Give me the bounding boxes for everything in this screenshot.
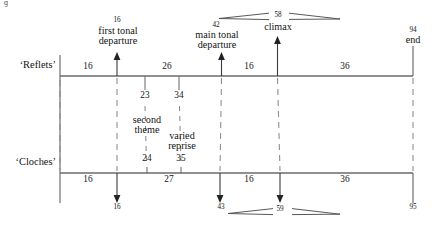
division-35-number: 35 [176,154,185,163]
event-main-tonal-departure-connector-dash [220,78,222,171]
cloches-span-2: 27 [164,175,173,184]
division-24-number: 24 [142,154,151,163]
event-climax-bottom-number: 59 [276,206,283,213]
end-marker-bottom-number: 95 [409,204,416,211]
event-main-tonal-departure-down-arrowhead [217,195,224,203]
event-first-tonal-departure-top-number: 16 [113,17,120,24]
diminuendo-hairpin-top [289,13,340,19]
event-main-tonal-departure-bottom-number: 43 [217,204,224,211]
track-label-cloches: ‘Cloches’ [16,157,56,168]
event-first-tonal-departure-up-arrowhead [114,52,121,60]
event-climax-down-arrowhead [277,195,284,203]
event-climax-top-number: 58 [274,12,281,19]
reflets-span-4: 36 [340,62,349,71]
division-23-number: 23 [140,91,149,100]
crescendo-hairpin-bottom [228,209,273,215]
event-main-tonal-departure-name: main tonal departure [195,30,238,51]
crescendo-hairpin-top [219,13,269,19]
event-first-tonal-departure-name: first tonal departure [98,26,137,47]
event-climax-up-arrowhead [274,36,281,44]
event-first-tonal-departure-bottom-number: 16 [113,204,120,211]
cloches-span-3: 16 [244,175,253,184]
inner-label-varied-reprise: varied reprise [168,131,196,152]
event-climax-connector-dash [278,78,281,171]
end-marker-label: end [406,35,421,45]
reflets-span-3: 16 [244,62,253,71]
event-first-tonal-departure-down-arrowhead [114,195,121,203]
event-main-tonal-departure-up-arrowhead [218,52,225,60]
track-label-reflets: ‘Reflets’ [20,60,56,71]
division-34-number: 34 [174,91,183,100]
cloches-span-4: 36 [340,175,349,184]
stray-glyph: ɡ [4,0,8,7]
reflets-span-1: 16 [83,62,92,71]
event-climax-name: climax [264,22,292,32]
diminuendo-hairpin-bottom [292,209,340,215]
inner-label-second-theme: second theme [133,115,161,136]
reflets-span-2: 26 [162,62,171,71]
timeline-diagram: ɡ ‘Reflets’ ‘Cloches’ 16 26 16 36 16 27 … [0,0,432,228]
cloches-span-1: 16 [83,175,92,184]
